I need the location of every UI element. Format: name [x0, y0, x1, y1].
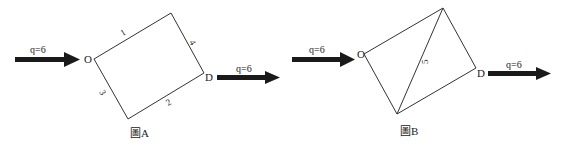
arrow-head-icon	[536, 67, 551, 80]
arrow-head-icon	[340, 52, 355, 67]
inflow-arrow-b: q=6	[292, 44, 355, 67]
link-label-3: 3	[97, 88, 108, 97]
outflow-arrow-a: q=6	[217, 63, 280, 84]
inflow-label-a: q=6	[30, 44, 46, 55]
link-label-1: 1	[118, 27, 127, 38]
network-rectangle-a	[94, 13, 204, 119]
node-origin-a: O	[84, 53, 92, 65]
link-label-2: 2	[164, 97, 173, 108]
inflow-label-b: q=6	[309, 44, 325, 55]
node-destination-a: D	[205, 71, 213, 83]
caption-b: 圖B	[400, 125, 418, 137]
link-label-5: 5	[420, 59, 430, 64]
figure-a: q=6 O 1 4 3 2 D q=6 圖A	[15, 13, 280, 139]
network-diagrams: q=6 O 1 4 3 2 D q=6 圖A q=6 O 5 D q=6	[0, 0, 565, 151]
arrow-head-icon	[64, 52, 80, 67]
outflow-arrow-b: q=6	[488, 59, 551, 80]
outflow-label-a: q=6	[236, 63, 252, 74]
node-destination-b: D	[477, 67, 485, 79]
caption-a: 圖A	[130, 127, 149, 139]
figure-b: q=6 O 5 D q=6 圖B	[292, 8, 551, 137]
outflow-label-b: q=6	[506, 59, 522, 70]
inflow-arrow-a: q=6	[15, 44, 80, 67]
arrow-head-icon	[265, 71, 280, 84]
